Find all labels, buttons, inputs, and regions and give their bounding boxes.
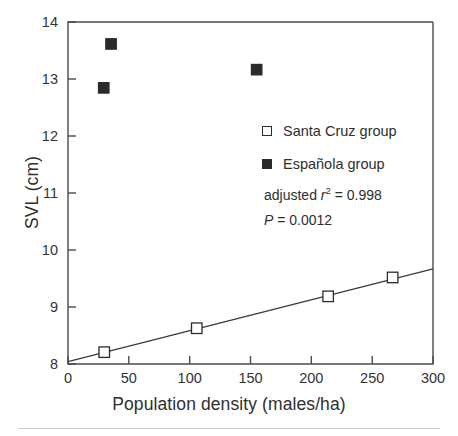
x-axis-ticks [68,356,433,364]
data-point-espanola-1 [99,83,110,94]
y-tick-label-13: 13 [30,72,58,87]
p-value-annotation: P = 0.0012 [264,212,444,228]
data-point-santa-cruz-2 [192,323,203,334]
footer-divider [18,428,440,429]
x-tick-label-300: 300 [421,371,445,386]
y-axis-ticks [68,22,76,364]
data-point-espanola-3 [251,64,262,75]
p-value-text: = 0.0012 [273,212,332,228]
data-point-santa-cruz-4 [387,272,398,283]
filled-square-marker-icon [262,159,272,169]
statistics-annotations: adjusted r2 = 0.998 P = 0.0012 [264,187,444,237]
x-tick-label-50: 50 [121,371,137,386]
legend-item-santa-cruz: Santa Cruz group [262,120,434,142]
y-tick-label-9: 9 [30,300,58,315]
x-axis-title: Population density (males/ha) [0,394,458,415]
x-tick-label-250: 250 [360,371,384,386]
legend-item-espanola: Española group [262,153,434,175]
x-tick-label-200: 200 [299,371,323,386]
data-point-espanola-2 [106,39,117,50]
y-tick-label-8: 8 [30,357,58,372]
y-axis-title: SVL (cm) [22,113,43,273]
legend-label-espanola: Española group [283,156,385,172]
series-santa-cruz-markers [99,272,398,357]
data-point-santa-cruz-3 [323,291,334,302]
x-tick-label-0: 0 [64,371,72,386]
y-tick-label-14: 14 [30,15,58,30]
series-espanola-markers [99,39,262,93]
x-tick-label-100: 100 [178,371,202,386]
trendline [68,269,433,362]
chart-legend: Santa Cruz group Española group [262,120,434,186]
adjusted-r-squared-annotation: adjusted r2 = 0.998 [264,187,444,203]
legend-label-santa-cruz: Santa Cruz group [283,123,397,139]
data-point-santa-cruz-1 [99,347,110,358]
r2-value-text: = 0.998 [331,187,382,203]
r2-prefix-text: adjusted [264,187,321,203]
scatter-plot-figure: 14 13 12 11 10 9 8 0 50 100 150 200 250 … [0,0,458,436]
open-square-marker-icon [262,126,272,136]
p-symbol-text: P [264,212,273,228]
x-tick-label-150: 150 [238,371,262,386]
